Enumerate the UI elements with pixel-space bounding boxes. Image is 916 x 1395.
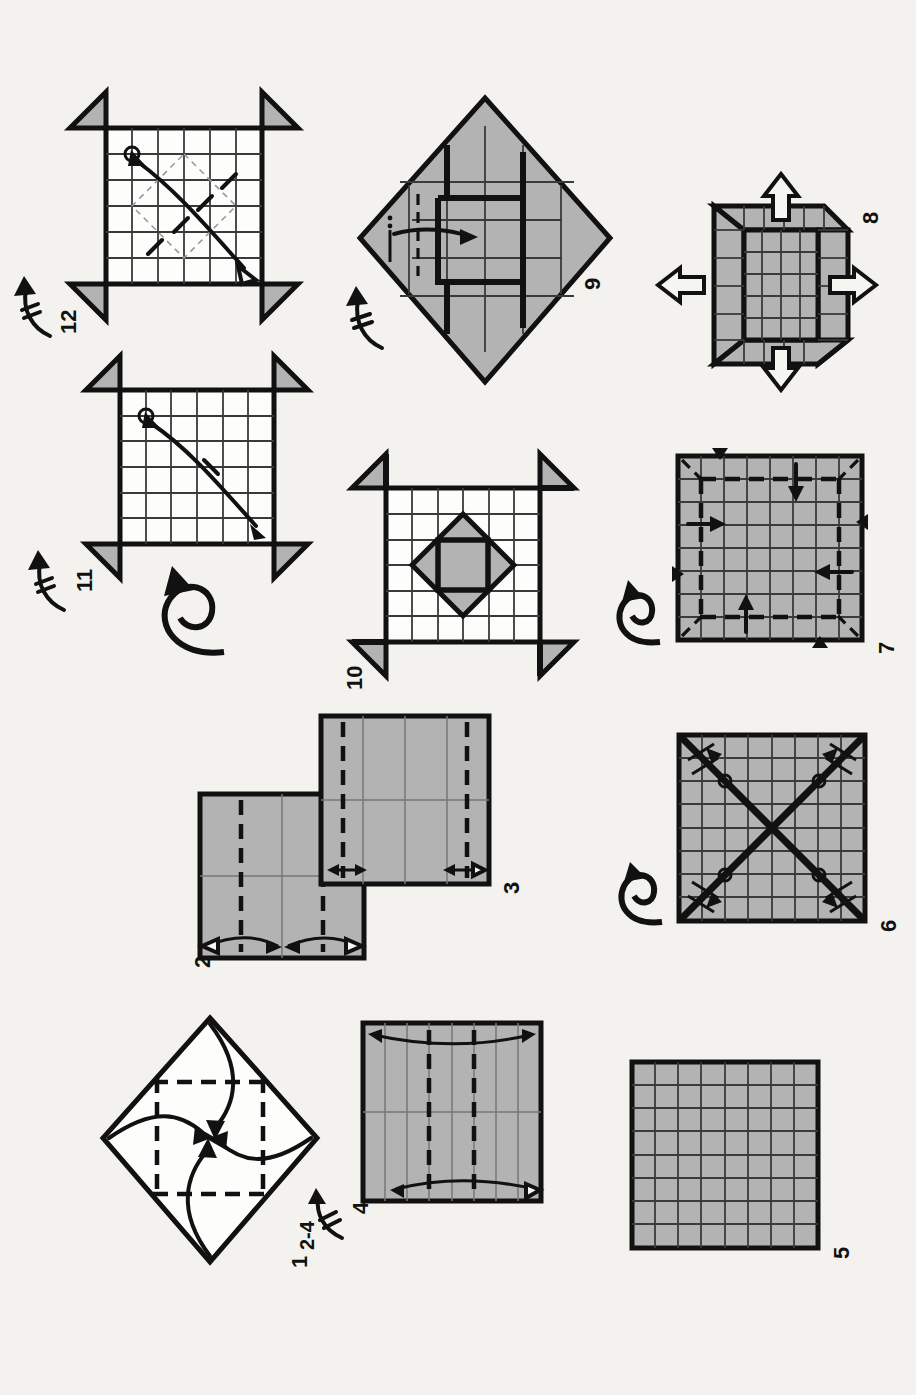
corner-flap [262,92,298,128]
step-8-number: 8 [858,212,884,224]
corner-flap [274,356,308,390]
corner-flap [274,544,308,578]
turn-over-symbol-6 [608,852,672,926]
step-10-number: 10 [342,666,368,690]
step-4-figure: 4 2-4 [358,1018,546,1206]
step-2-number: 2 [190,956,216,968]
corner-flap [540,642,574,676]
step-11-figure: 11 [78,348,316,586]
step-5-figure: 5 [627,1057,823,1253]
repeat-label-2-4: 2-4 [296,1221,319,1250]
step-8-figure: 8 [652,168,882,396]
center-square [438,540,488,590]
step-6-number: 6 [876,920,902,932]
repeat-marker-11 [22,546,78,616]
turn-over-symbol-main [142,560,234,660]
repeat-marker-12 [10,272,64,342]
step-9-figure: 9 [352,90,618,390]
repeat-marker-9 [334,276,396,356]
step-10-figure: 10 [348,450,578,680]
step-3-figure: 3 [317,712,493,888]
step-1-number: 1 [287,1256,313,1268]
step-3-number: 3 [499,882,525,894]
step-7-figure: 7 [672,448,868,648]
step-6-figure: 6 [674,730,870,926]
corner-flap [70,92,106,128]
corner-flap [540,454,574,488]
turn-over-symbol-7 [604,570,670,646]
step-1-figure: 1 [95,1010,325,1270]
origami-diagram-sheet: 1 2 [0,0,916,1395]
pull-arrow-left [658,268,704,302]
step-5-number: 5 [829,1247,855,1259]
corner-flap [352,454,386,488]
corner-flap [86,356,120,390]
step-7-number: 7 [874,642,900,654]
step-9-number: 9 [580,278,606,290]
corner-flap [262,284,298,320]
step-12-figure: 12 [62,84,306,328]
